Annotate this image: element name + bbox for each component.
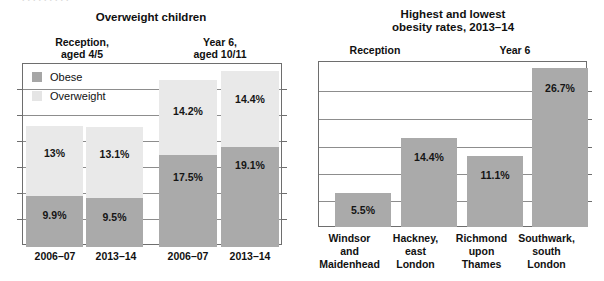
x-label: 2013–14 xyxy=(195,250,305,263)
bar-segment-overweight[interactable]: 14.4% xyxy=(221,71,279,147)
bar-label-overweight: 13.1% xyxy=(86,148,143,160)
axis-tick xyxy=(17,89,23,90)
legend-item-overweight[interactable]: Overweight xyxy=(32,86,106,105)
bar-label-obese: 9.9% xyxy=(26,209,83,221)
bar-segment-obese[interactable]: 9.5% xyxy=(86,198,143,247)
bar-simple[interactable]: 14.4% xyxy=(401,138,457,227)
legend-item-obese[interactable]: Obese xyxy=(32,67,106,86)
bar-label-overweight: 14.2% xyxy=(159,105,217,117)
bar-stacked[interactable]: 14.2% 17.5% xyxy=(159,80,217,247)
bar-segment-obese[interactable]: 17.5% xyxy=(159,155,217,247)
left-plot-area: 13% 9.9% 13.1% 9.5% 14.2% xyxy=(22,63,282,245)
legend-swatch-obese-icon xyxy=(32,72,42,82)
axis-tick xyxy=(17,167,23,168)
axis-tick xyxy=(281,141,287,142)
axis-tick xyxy=(17,115,23,116)
right-chart-title: Highest and lowest obesity rates, 2013–1… xyxy=(302,8,604,34)
bar-label-overweight: 13% xyxy=(26,147,83,159)
bar-label-obese: 17.5% xyxy=(159,171,217,183)
right-group-heading-reception: Reception xyxy=(310,44,440,56)
left-chart-panel: Overweight children Reception, aged 4/5 … xyxy=(0,0,302,281)
axis-tick xyxy=(17,219,23,220)
bar-segment-overweight[interactable]: 14.2% xyxy=(159,80,217,155)
bar-simple[interactable]: 26.7% xyxy=(532,68,588,227)
bar-label-obese: 9.5% xyxy=(86,211,143,223)
bar-label: 26.7% xyxy=(532,82,588,94)
bar-stacked[interactable]: 13% 9.9% xyxy=(26,126,83,247)
right-group-heading-year6: Year 6 xyxy=(450,44,580,56)
bar-segment-overweight[interactable]: 13% xyxy=(26,126,83,196)
axis-tick xyxy=(281,219,287,220)
legend-label-obese: Obese xyxy=(50,71,82,83)
axis-tick xyxy=(281,193,287,194)
left-chart-title: Overweight children xyxy=(0,11,302,24)
bar-segment-overweight[interactable]: 13.1% xyxy=(86,127,143,198)
axis-tick xyxy=(17,141,23,142)
axis-tick xyxy=(281,115,287,116)
x-label: Southwark, south London xyxy=(494,232,599,271)
axis-tick xyxy=(281,167,287,168)
bar-simple[interactable]: 5.5% xyxy=(335,193,391,227)
bar-label-overweight: 14.4% xyxy=(221,93,279,105)
legend-label-overweight: Overweight xyxy=(50,90,106,102)
bar-simple[interactable]: 11.1% xyxy=(467,156,523,227)
legend-swatch-overweight-icon xyxy=(32,91,42,101)
bar-label: 11.1% xyxy=(467,169,523,181)
left-group-heading-year6: Year 6, aged 10/11 xyxy=(160,36,280,60)
axis-tick xyxy=(281,89,287,90)
bar-segment-obese[interactable]: 9.9% xyxy=(26,196,83,247)
axis-tick xyxy=(17,193,23,194)
legend: Obese Overweight xyxy=(32,67,106,105)
bar-segment-obese[interactable]: 19.1% xyxy=(221,147,279,247)
left-group-heading-reception: Reception, aged 4/5 xyxy=(22,36,142,60)
bar-label-obese: 19.1% xyxy=(221,159,279,171)
chart-page: ......... Overweight children Reception,… xyxy=(0,0,604,281)
bar-stacked[interactable]: 13.1% 9.5% xyxy=(86,127,143,247)
right-chart-panel: Highest and lowest obesity rates, 2013–1… xyxy=(302,0,604,281)
bar-stacked[interactable]: 14.4% 19.1% xyxy=(221,71,279,247)
right-plot-area: 5.5% 14.4% 11.1% 26.7% xyxy=(318,61,587,227)
bar-label: 5.5% xyxy=(335,204,391,216)
bar-label: 14.4% xyxy=(401,151,457,163)
